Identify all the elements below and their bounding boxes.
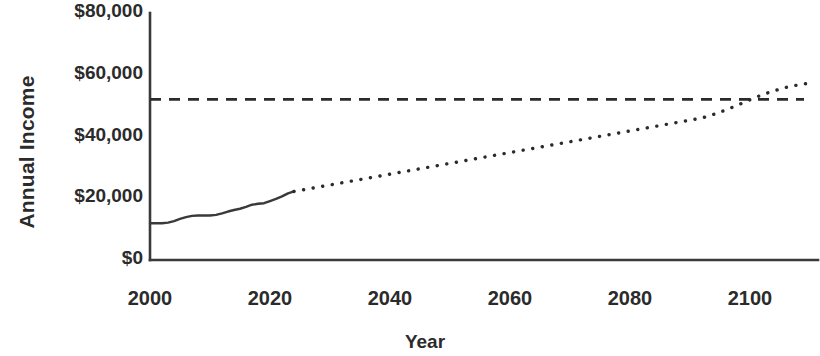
axis-lines — [150, 13, 818, 260]
historical-income-line — [150, 191, 294, 223]
plot-area — [0, 0, 820, 356]
income-projection-chart: Annual Income $0$20,000$40,000$60,000$80… — [0, 0, 820, 356]
